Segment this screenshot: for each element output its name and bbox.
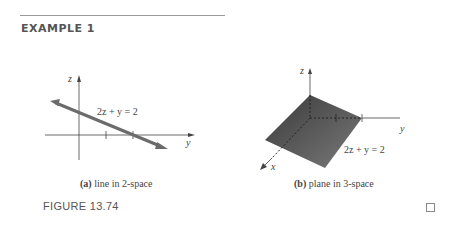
x-axis-label: x	[270, 161, 276, 170]
plane-2z-y-2	[265, 95, 362, 168]
caption-b: (b) plane in 3-space	[294, 178, 374, 189]
section-rule	[20, 15, 225, 16]
z-axis-arrow-icon	[308, 68, 312, 74]
y-axis-label: y	[185, 137, 191, 148]
line-arrow-right-icon	[155, 142, 168, 149]
caption-a: (a) line in 2-space	[80, 178, 152, 189]
caption-b-tag: (b)	[294, 178, 306, 189]
caption-a-text: line in 2-space	[92, 178, 153, 189]
figure-number: FIGURE 13.74	[43, 200, 119, 212]
caption-a-tag: (a)	[80, 178, 92, 189]
caption-b-text: plane in 3-space	[306, 178, 373, 189]
z-axis-arrow-icon	[77, 75, 81, 82]
figure-a-line-2d: z y 2z + y = 2	[30, 60, 210, 170]
equation-label: 2z + y = 2	[344, 144, 385, 155]
y-axis-label: y	[399, 123, 405, 134]
example-heading: EXAMPLE 1	[21, 22, 95, 35]
end-of-proof-icon	[426, 203, 435, 212]
equation-label: 2z + y = 2	[97, 106, 138, 117]
figure-b-plane-3d: z y x 2z + y = 2	[240, 60, 410, 170]
z-axis-label: z	[299, 65, 304, 76]
z-axis-label: z	[67, 73, 72, 84]
